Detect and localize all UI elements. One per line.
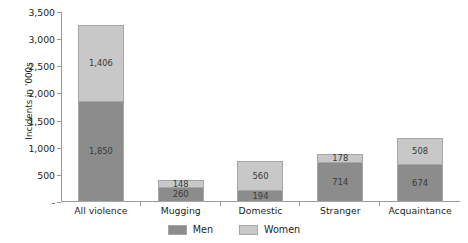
chart-legend: MenWomen — [0, 224, 468, 235]
stacked-bar-chart: Incidents in '000s -5001,0001,5002,0002,… — [0, 0, 468, 243]
bar-value-label: 260 — [173, 190, 189, 198]
bar-segment-men[interactable]: 194 — [237, 191, 283, 202]
bar-slot: 148260 — [141, 12, 221, 202]
y-axis-tick-label: 2,000 — [3, 88, 61, 99]
bar-slot: 560194 — [221, 12, 301, 202]
stacked-bar[interactable]: 560194 — [237, 161, 283, 202]
x-axis-category-label: Stranger — [300, 205, 380, 216]
y-axis-title: Incidents in '000s — [24, 26, 34, 176]
x-axis-category-label: All violence — [61, 205, 141, 216]
bar-slot: 1,4061,850 — [61, 12, 141, 202]
y-axis-tick-label: - — [3, 197, 61, 208]
y-axis-tick-label: 3,500 — [3, 7, 61, 18]
plot-area: -5001,0001,5002,0002,5003,0003,500 1,406… — [61, 12, 460, 202]
bar-value-label: 194 — [252, 192, 268, 200]
bar-segment-women[interactable]: 148 — [158, 180, 204, 188]
bar-segment-men[interactable]: 674 — [397, 165, 443, 202]
bar-value-label: 148 — [173, 180, 189, 188]
stacked-bar[interactable]: 508674 — [397, 138, 443, 202]
bar-value-label: 714 — [332, 178, 348, 186]
x-axis-category-label: Acquaintance — [380, 205, 460, 216]
bar-value-label: 674 — [412, 179, 428, 187]
legend-item[interactable]: Men — [168, 224, 213, 235]
bar-segment-women[interactable]: 560 — [237, 161, 283, 191]
bar-segment-women[interactable]: 178 — [317, 154, 363, 164]
y-axis-tick-label: 3,000 — [3, 34, 61, 45]
y-axis-tick-label: 2,500 — [3, 61, 61, 72]
bar-slot: 178714 — [300, 12, 380, 202]
bar-value-label: 178 — [332, 154, 348, 162]
stacked-bar[interactable]: 1,4061,850 — [78, 25, 124, 202]
bar-value-label: 508 — [412, 147, 428, 155]
bar-value-label: 1,406 — [89, 59, 113, 67]
y-axis-tick-label: 1,000 — [3, 142, 61, 153]
x-axis-labels: All violenceMuggingDomesticStrangerAcqua… — [61, 205, 460, 216]
bar-value-label: 1,850 — [89, 147, 113, 155]
bar-value-label: 560 — [252, 172, 268, 180]
y-axis-tick-label: 1,500 — [3, 115, 61, 126]
bar-segment-men[interactable]: 1,850 — [78, 102, 124, 202]
legend-item[interactable]: Women — [239, 224, 300, 235]
bar-slot: 508674 — [380, 12, 460, 202]
legend-swatch-icon — [168, 225, 187, 235]
x-axis-category-label: Domestic — [221, 205, 301, 216]
bar-segment-women[interactable]: 508 — [397, 138, 443, 166]
stacked-bar[interactable]: 178714 — [317, 154, 363, 202]
legend-label: Women — [264, 224, 300, 235]
bar-segment-men[interactable]: 714 — [317, 163, 363, 202]
bar-group: 1,4061,850148260560194178714508674 — [61, 12, 460, 202]
legend-swatch-icon — [239, 225, 258, 235]
y-axis-tick-label: 500 — [3, 169, 61, 180]
y-axis-tick-mark — [57, 202, 61, 203]
stacked-bar[interactable]: 148260 — [158, 180, 204, 202]
legend-label: Men — [193, 224, 213, 235]
bar-segment-men[interactable]: 260 — [158, 188, 204, 202]
bar-segment-women[interactable]: 1,406 — [78, 25, 124, 101]
x-axis-category-label: Mugging — [141, 205, 221, 216]
